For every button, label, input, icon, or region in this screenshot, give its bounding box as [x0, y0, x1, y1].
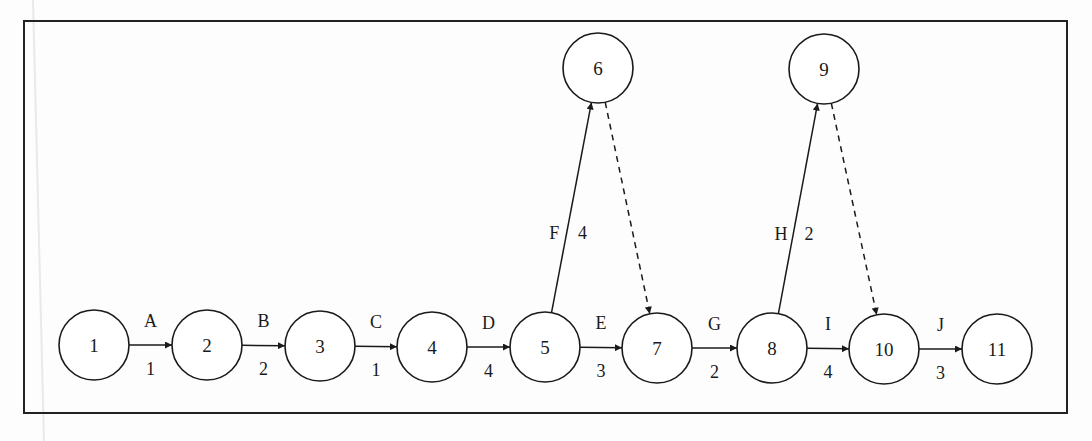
dummy-edge [831, 103, 876, 315]
activity-label: D [482, 313, 495, 333]
network-diagram: A1B2C1D4E3F4G2H2I4J3 1234567891011 [0, 0, 1092, 441]
node-8: 8 [737, 313, 807, 383]
node-11: 11 [962, 314, 1032, 384]
activity-label: F [549, 223, 559, 243]
arrow-icon [552, 102, 592, 312]
node-label: 8 [767, 338, 777, 359]
duration-label: 1 [146, 359, 155, 379]
node-6: 6 [563, 33, 633, 103]
duration-label: 2 [710, 362, 719, 382]
node-label: 4 [427, 337, 437, 358]
node-4: 4 [397, 312, 467, 382]
node-2: 2 [172, 310, 242, 380]
arrow-icon [605, 102, 650, 314]
activity-label: A [144, 311, 157, 331]
node-label: 5 [540, 337, 550, 358]
node-1: 1 [59, 310, 129, 380]
node-9: 9 [789, 34, 859, 104]
node-3: 3 [285, 311, 355, 381]
duration-label: 4 [824, 362, 833, 382]
node-label: 6 [593, 58, 603, 79]
activity-label: I [825, 314, 831, 334]
nodes-layer: 1234567891011 [59, 33, 1032, 384]
node-label: 2 [202, 335, 212, 356]
node-label: 11 [988, 339, 1006, 360]
dummy-edge [605, 102, 650, 314]
activity-label: G [708, 314, 721, 334]
activity-edge-h [778, 103, 817, 313]
duration-label: 2 [259, 359, 268, 379]
node-5: 5 [510, 312, 580, 382]
activity-label: B [257, 311, 269, 331]
activity-edge-f [552, 102, 592, 312]
node-label: 7 [652, 338, 662, 359]
duration-label: 3 [936, 363, 945, 383]
duration-label: 3 [597, 361, 606, 381]
activity-label: C [370, 312, 382, 332]
node-label: 1 [89, 335, 99, 356]
activity-label: E [596, 313, 607, 333]
arrow-icon [831, 103, 876, 315]
activity-label: J [937, 315, 944, 335]
scan-artifact [33, 0, 44, 441]
node-label: 3 [315, 336, 325, 357]
node-label: 10 [875, 339, 894, 360]
node-10: 10 [849, 314, 919, 384]
duration-label: 4 [578, 223, 587, 243]
activity-label: H [774, 224, 787, 244]
duration-label: 4 [484, 361, 493, 381]
node-label: 9 [819, 59, 829, 80]
duration-label: 2 [804, 224, 813, 244]
node-7: 7 [622, 313, 692, 383]
duration-label: 1 [372, 360, 381, 380]
arrow-icon [778, 103, 817, 313]
